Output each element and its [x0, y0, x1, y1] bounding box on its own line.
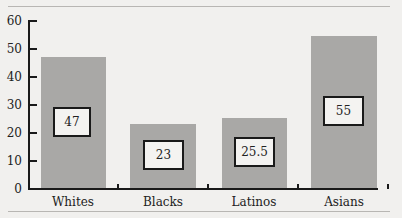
y-tick — [28, 132, 37, 134]
y-tick-label: 60 — [0, 15, 22, 27]
x-label-whites: Whites — [33, 195, 113, 209]
x-tick — [297, 184, 299, 189]
x-tick — [387, 184, 389, 189]
value-label-latinos: 25.5 — [234, 137, 275, 167]
value-label-blacks: 23 — [143, 140, 184, 170]
y-tick-label: 10 — [0, 155, 22, 167]
x-label-latinos: Latinos — [214, 195, 294, 209]
top-rule — [8, 6, 390, 7]
value-text: 47 — [64, 115, 79, 129]
x-tick — [117, 184, 119, 189]
y-tick — [28, 76, 37, 78]
y-tick-label: 50 — [0, 43, 22, 55]
value-text: 25.5 — [241, 145, 268, 159]
y-tick — [28, 20, 37, 22]
y-tick-label: 30 — [0, 99, 22, 111]
value-text: 23 — [156, 148, 171, 162]
x-axis — [28, 188, 378, 190]
value-label-asians: 55 — [323, 96, 364, 126]
y-tick-label: 0 — [0, 183, 22, 195]
value-label-whites: 47 — [53, 107, 91, 137]
y-tick-label: 40 — [0, 71, 22, 83]
y-tick-label: 20 — [0, 127, 22, 139]
x-label-asians: Asians — [304, 195, 384, 209]
y-tick — [28, 48, 37, 50]
y-tick — [28, 160, 37, 162]
y-tick — [28, 104, 37, 106]
x-tick — [207, 184, 209, 189]
x-label-blacks: Blacks — [123, 195, 203, 209]
value-text: 55 — [336, 104, 351, 118]
bottom-rule — [8, 211, 390, 212]
